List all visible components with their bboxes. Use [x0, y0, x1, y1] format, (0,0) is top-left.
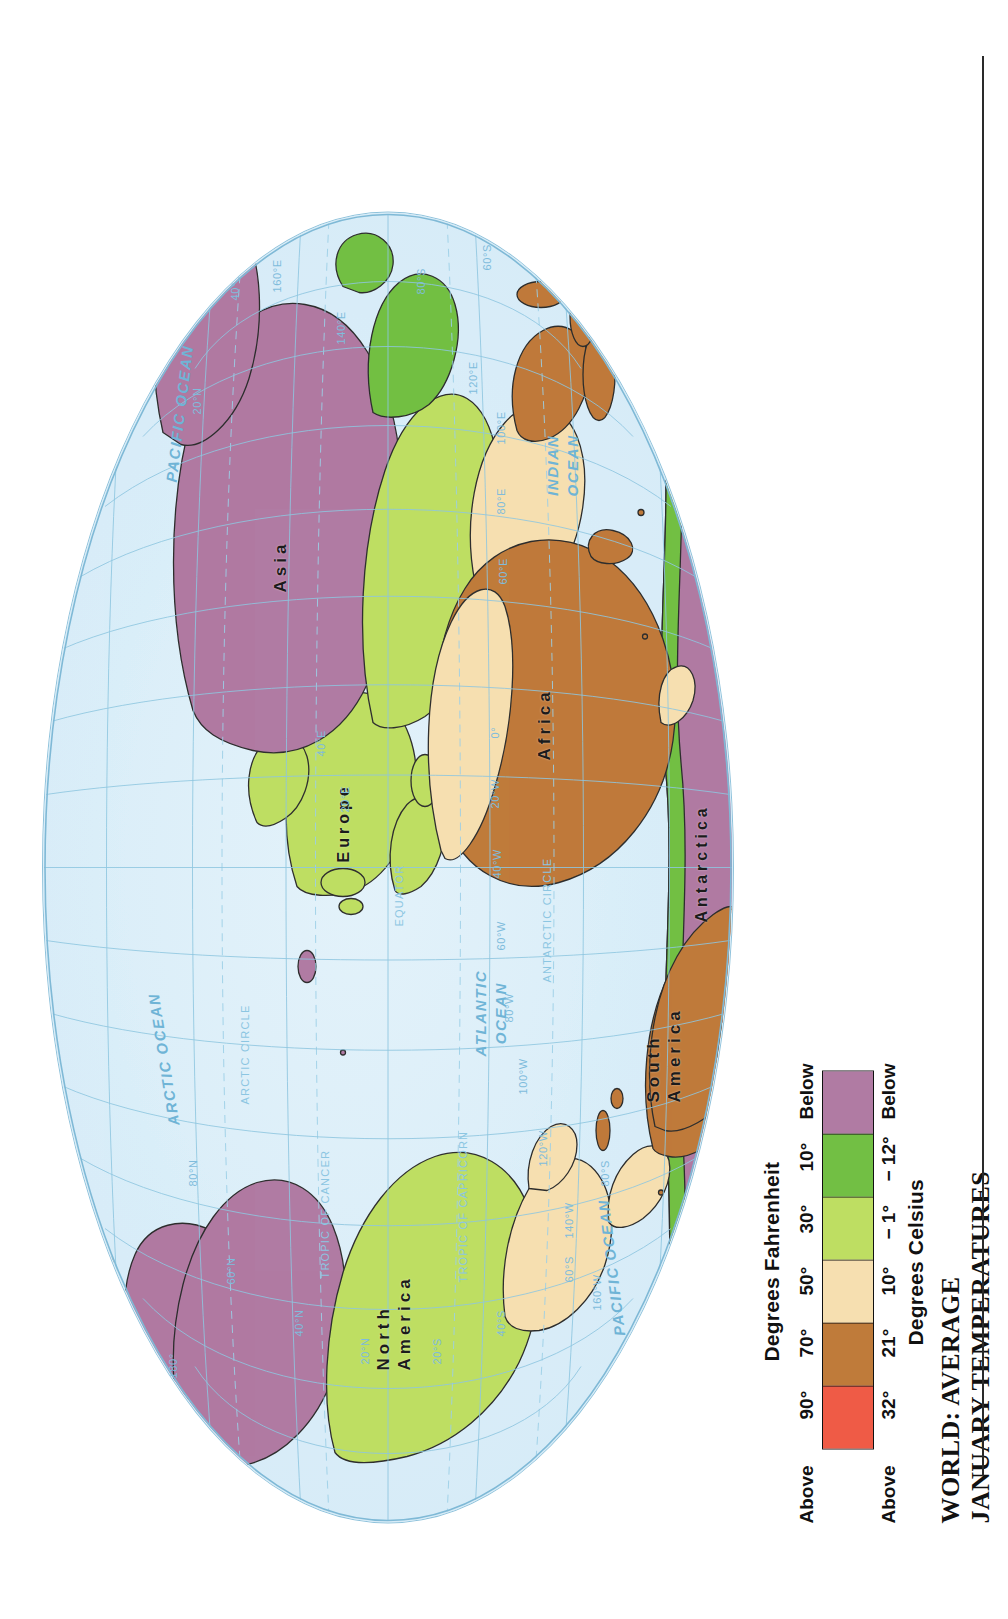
longitude-label-20e: 20°E — [339, 786, 351, 812]
legend-below-label-fahrenheit: Below — [796, 1063, 818, 1119]
legend-tick-c-neg12: − 12° — [878, 1136, 900, 1181]
longitude-label-20w: 20°W — [489, 779, 501, 808]
legend-below-label-celsius: Below — [878, 1063, 900, 1119]
continent-label-africa: Africa — [535, 688, 555, 760]
page-title: WORLD: AVERAGE JANUARY TEMPERATURES — [936, 1170, 995, 1523]
ocean-label-indian-line2: OCEAN — [563, 434, 583, 496]
latitude-label-60s: 60°S — [563, 1256, 575, 1282]
page-title-line2: JANUARY TEMPERATURES — [966, 1170, 996, 1523]
legend-swatch-70-90f[interactable] — [823, 1322, 873, 1385]
longitude-label-120w: 120°W — [537, 1130, 549, 1166]
latitude-label-60n: 60°N — [225, 1257, 237, 1284]
legend-swatch-30-50f[interactable] — [823, 1196, 873, 1259]
latitude-label-40s-east: 40°S — [229, 274, 241, 300]
map-globe-frame: North America South America Europe Asia … — [42, 211, 734, 1523]
reference-line-antarctic-circle: ANTARCTIC CIRCLE — [541, 857, 553, 982]
continent-label-north-america: North America — [373, 1250, 416, 1370]
ocean-label-indian: INDIAN OCEAN — [543, 434, 584, 496]
legend-tick-c-32: 32° — [878, 1390, 900, 1419]
legend-tick-c-neg1: − 1° — [878, 1204, 900, 1239]
legend-tick-c-21: 21° — [878, 1328, 900, 1357]
longitude-label-180-e: 180° — [203, 215, 215, 240]
world-map[interactable]: North America South America Europe Asia … — [42, 213, 732, 1523]
longitude-label-160e: 160°E — [271, 259, 283, 292]
longitude-label-160w: 160°W — [591, 1274, 603, 1310]
longitude-label-140e: 140°E — [335, 311, 347, 344]
legend-swatch-above-90f[interactable] — [823, 1385, 873, 1448]
longitude-label-60w: 60°W — [495, 921, 507, 950]
legend-tick-f-70: 70° — [796, 1328, 818, 1357]
continent-label-australia: Australia — [683, 232, 701, 336]
latitude-label-80s: 80°S — [599, 1160, 611, 1186]
longitude-label-180-w: 180° — [167, 1353, 179, 1378]
longitude-label-0: 0° — [489, 726, 501, 738]
longitude-label-80e: 80°E — [495, 488, 507, 514]
latitude-label-20n: 20°N — [359, 1337, 371, 1364]
reference-line-arctic-circle: ARCTIC CIRCLE — [239, 1004, 251, 1104]
latitude-label-40s: 40°S — [495, 1310, 507, 1336]
latitude-label-40n: 40°N — [293, 1309, 305, 1336]
legend-swatch-10-30f[interactable] — [823, 1133, 873, 1196]
longitude-label-60e: 60°E — [497, 558, 509, 584]
latitude-label-60s-east: 60°S — [481, 244, 493, 270]
reference-line-tropic-cancer: TROPIC OF CANCER — [319, 1149, 331, 1278]
legend-tick-f-10: 10° — [796, 1142, 818, 1171]
latitude-label-80s-east: 80°S — [415, 268, 427, 294]
ocean-label-indian-line1: INDIAN — [543, 434, 563, 496]
longitude-label-40e: 40°E — [315, 730, 327, 756]
reference-line-equator: EQUATOR — [393, 864, 405, 926]
continent-label-south-america: South America — [643, 992, 686, 1102]
reference-line-tropic-capricorn: TROPIC OF CAPRICORN — [457, 1130, 469, 1282]
map-page: North America South America Europe Asia … — [0, 0, 1008, 1619]
latitude-label-80n: 80°N — [187, 1159, 199, 1186]
longitude-label-80w: 80°W — [503, 993, 515, 1022]
continent-label-antarctica: Antarctica — [693, 804, 711, 922]
legend-tick-c-10: 10° — [878, 1266, 900, 1295]
latitude-label-20s: 20°S — [431, 1338, 443, 1364]
legend-tick-f-50: 50° — [796, 1266, 818, 1295]
map-plate: North America South America Europe Asia … — [0, 0, 1008, 1619]
legend-title-celsius: Degrees Celsius — [904, 1179, 928, 1345]
legend-swatch-50-70f[interactable] — [823, 1259, 873, 1322]
page-rule-divider — [982, 56, 984, 1476]
longitude-label-120e: 120°E — [467, 361, 479, 394]
legend-above-label-celsius: Above — [878, 1465, 900, 1523]
legend-color-swatches[interactable] — [822, 1070, 874, 1449]
legend-title-fahrenheit: Degrees Fahrenheit — [760, 1161, 784, 1361]
longitude-label-100e: 100°E — [495, 411, 507, 444]
page-title-line1: WORLD: AVERAGE — [936, 1170, 966, 1523]
longitude-label-140w: 140°W — [563, 1202, 575, 1238]
legend-tick-f-90: 90° — [796, 1390, 818, 1419]
longitude-label-40w: 40°W — [491, 849, 503, 878]
continent-label-asia: Asia — [271, 540, 291, 592]
legend-swatch-below-10f[interactable] — [823, 1071, 873, 1133]
longitude-label-100w: 100°W — [517, 1058, 529, 1094]
legend-above-label-fahrenheit: Above — [796, 1465, 818, 1523]
latitude-label-20n-east: 20°N — [191, 387, 203, 414]
temperature-legend: Degrees Fahrenheit Above 90° 70° 50° 30°… — [760, 963, 920, 1523]
legend-tick-f-30: 30° — [796, 1204, 818, 1233]
ocean-label-atlantic-line1: ATLANTIC — [471, 969, 491, 1056]
